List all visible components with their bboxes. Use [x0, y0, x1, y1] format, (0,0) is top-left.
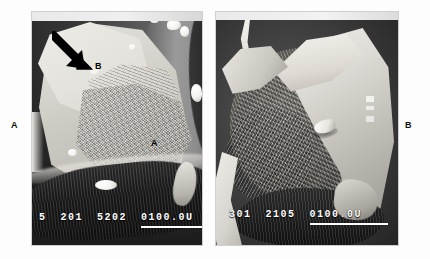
panel-b-scale-bar	[310, 223, 388, 225]
panel-a-nodule-8	[95, 180, 117, 190]
panel-a-scale-text: 0100.0U	[141, 213, 194, 223]
annotation-arrow-icon	[52, 30, 98, 76]
panel-b-sem-overlay: 301 2105 0100.0U	[216, 210, 398, 220]
panel-a-overlay-field-2: 201	[61, 213, 84, 223]
panel-a-region-label-a: A	[151, 139, 158, 148]
panel-a-nodule-4	[180, 26, 189, 37]
panel-b-edge-ticks	[366, 96, 374, 122]
panel-b-top-strip	[216, 12, 398, 20]
panel-a-overlay-field-3: 5202	[97, 213, 127, 223]
panel-b-scale-group: 0100.0U	[310, 210, 363, 220]
panel-b-overlay-field-2: 2105	[266, 210, 296, 220]
figure-container: A B A 5	[0, 0, 430, 259]
panel-b-scale-text: 0100.0U	[310, 210, 363, 220]
micrograph-panel-b: 301 2105 0100.0U	[216, 12, 398, 245]
panel-a-scale-bar	[141, 226, 202, 228]
panel-label-b: B	[405, 121, 412, 130]
panel-a-nodule-6	[191, 84, 202, 102]
panel-a-scale-group: 0100.0U	[141, 213, 194, 223]
panel-a-sem-overlay: 5 201 5202 0100.0U	[32, 213, 202, 223]
panel-b-overlay-field-1: 301	[229, 210, 252, 220]
panel-a-nodule-2	[129, 44, 136, 50]
panel-label-a: A	[11, 121, 18, 130]
panel-a-overlay-field-1: 5	[39, 213, 47, 223]
panel-a-top-strip	[32, 12, 202, 21]
panel-a-left-edge-sliver	[32, 112, 44, 172]
micrograph-panel-a: B A 5 201 5202 0100.0U	[32, 12, 202, 245]
panel-a-region-label-b: B	[95, 62, 102, 71]
panel-a-nodule-7	[68, 149, 77, 156]
